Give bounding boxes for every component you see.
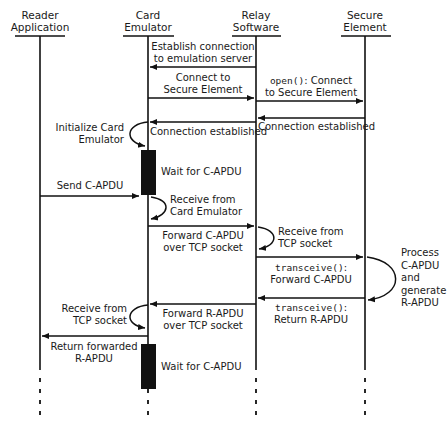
label-line: generate: [401, 285, 446, 298]
label-line: Secure Element: [150, 84, 256, 96]
participant-label-line2: Software: [216, 21, 296, 33]
label-line: Connect to: [150, 72, 256, 84]
label-line: Connection established: [150, 126, 256, 138]
label-conn-established-card: Connection established: [150, 126, 256, 138]
code-text: transceive(): [275, 302, 344, 313]
label-line: Wait for C-APDU: [161, 361, 241, 373]
label-receive-from-tcp-card: Receive from TCP socket: [50, 303, 127, 327]
code-text: open(): [270, 75, 304, 86]
participant-reader: Reader Application: [0, 9, 80, 33]
participant-label-line2: Application: [0, 21, 80, 33]
label-line: Establish connection: [150, 41, 256, 53]
label-line: TCP socket: [278, 238, 344, 250]
label-process-capdu: Process C-APDU and generate R-APDU: [401, 247, 446, 310]
label-line: Connection established: [258, 121, 364, 133]
label-line: Receive from: [170, 194, 242, 206]
label-line: Forward C-APDU: [150, 230, 256, 242]
participant-label-line2: Emulator: [108, 21, 188, 33]
label-line: :: [344, 302, 347, 313]
activation-card-2: [141, 344, 156, 389]
participant-label-line1: Reader: [0, 9, 80, 21]
label-line: over TCP socket: [150, 242, 256, 254]
label-line: Process: [401, 247, 446, 260]
participant-label-line1: Card: [108, 9, 188, 21]
label-line: Forward C-APDU: [258, 274, 364, 286]
label-line: Return forwarded: [48, 341, 140, 353]
label-receive-from-tcp-relay: Receive from TCP socket: [278, 226, 344, 250]
label-line: Initialize Card: [50, 122, 124, 134]
participant-relay-software: Relay Software: [216, 9, 296, 33]
label-line: and: [401, 272, 446, 285]
self-loop-receive-tcp-relay: [258, 227, 274, 249]
label-line: R-APDU: [401, 297, 446, 310]
label-line: over TCP socket: [150, 320, 256, 332]
label-line: :: [344, 262, 347, 273]
label-transceive-forward: transceive(): Forward C-APDU: [258, 262, 364, 286]
participant-label-line2: Element: [325, 21, 405, 33]
activation-card-1: [141, 150, 156, 195]
label-send-capdu: Send C-APDU: [40, 180, 140, 192]
label-line: Forward R-APDU: [150, 308, 256, 320]
label-line: TCP socket: [50, 315, 127, 327]
label-open: open(): Connect to Secure Element: [258, 75, 364, 99]
self-loop-receive-card: [151, 197, 166, 219]
participant-card-emulator: Card Emulator: [108, 9, 188, 33]
label-transceive-return: transceive(): Return R-APDU: [258, 302, 364, 326]
participant-label-line1: Relay: [216, 9, 296, 21]
label-forward-capdu: Forward C-APDU over TCP socket: [150, 230, 256, 254]
label-line: to Secure Element: [258, 87, 364, 99]
participant-label-line1: Secure: [325, 9, 405, 21]
code-text: transceive(): [275, 262, 344, 273]
label-line: Return R-APDU: [258, 314, 364, 326]
label-line: Send C-APDU: [40, 180, 140, 192]
participant-secure-element: Secure Element: [325, 9, 405, 33]
self-loop-initialize: [130, 122, 148, 146]
label-line: Receive from: [50, 303, 127, 315]
label-initialize-card-emulator: Initialize Card Emulator: [50, 122, 124, 146]
label-line: C-APDU: [401, 260, 446, 273]
label-wait-capdu-2: Wait for C-APDU: [161, 361, 241, 373]
label-conn-established-se: Connection established: [258, 121, 364, 133]
label-line: R-APDU: [48, 353, 140, 365]
label-line: Emulator: [50, 134, 124, 146]
label-return-forwarded-rapdu: Return forwarded R-APDU: [48, 341, 140, 365]
label-establish-connection: Establish connection to emulation server: [150, 41, 256, 65]
self-loop-receive-tcp-card: [130, 305, 148, 328]
label-line: : Connect: [304, 75, 352, 86]
label-receive-from-card-emulator: Receive from Card Emulator: [170, 194, 242, 218]
lifeline-continuations: [40, 378, 365, 415]
label-wait-capdu-1: Wait for C-APDU: [161, 166, 241, 178]
label-line: to emulation server: [150, 53, 256, 65]
label-forward-rapdu: Forward R-APDU over TCP socket: [150, 308, 256, 332]
self-loop-process: [367, 257, 396, 300]
label-line: Wait for C-APDU: [161, 166, 241, 178]
label-line: Card Emulator: [170, 206, 242, 218]
label-connect-to-se: Connect to Secure Element: [150, 72, 256, 96]
label-line: Receive from: [278, 226, 344, 238]
